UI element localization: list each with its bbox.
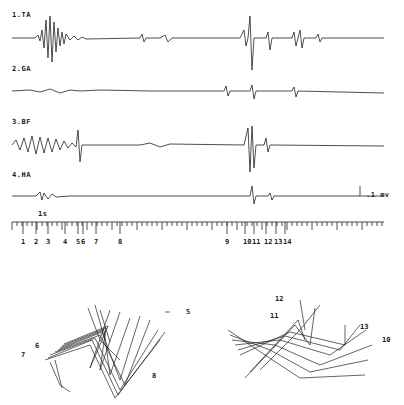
- marker-13: 13: [274, 238, 282, 246]
- marker-11: 11: [252, 238, 260, 246]
- marker-7: 7: [94, 238, 98, 246]
- marker-6: 6: [81, 238, 85, 246]
- marker-1: 1: [21, 238, 25, 246]
- stick-label-13: 13: [360, 323, 368, 331]
- stick-label-12: 12: [275, 295, 283, 303]
- marker-8: 8: [118, 238, 122, 246]
- marker-3: 3: [46, 238, 50, 246]
- marker-2: 2: [34, 238, 38, 246]
- emg-traces: [0, 0, 404, 405]
- marker-10: 10: [243, 238, 251, 246]
- marker-9: 9: [225, 238, 229, 246]
- stick-label-10: 10: [382, 336, 390, 344]
- marker-14: 14: [283, 238, 291, 246]
- stick-label-7: 7: [21, 351, 25, 359]
- marker-12: 12: [264, 238, 272, 246]
- marker-4: 4: [63, 238, 67, 246]
- stick-label-8: 8: [152, 372, 156, 380]
- stick-label-5: 5: [186, 308, 190, 316]
- stick-label-11: 11: [270, 312, 278, 320]
- marker-5: 5: [76, 238, 80, 246]
- stick-label-6: 6: [35, 342, 39, 350]
